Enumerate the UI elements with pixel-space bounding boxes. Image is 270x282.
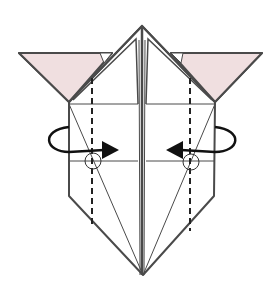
- origami-diagram: [0, 0, 270, 282]
- diagram-canvas: [0, 0, 270, 282]
